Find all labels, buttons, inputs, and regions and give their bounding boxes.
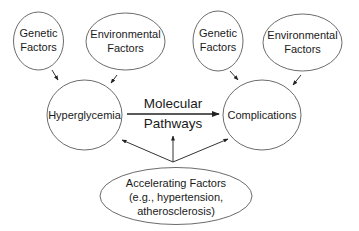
diabetes-complications-diagram: Genetic Factors Environmental Factors Ge… <box>0 0 359 231</box>
accelerating-line3: atherosclerosis) <box>137 205 215 217</box>
environmental-left-line2: Factors <box>107 42 144 54</box>
node-environmental-factors-right: Environmental Factors <box>263 14 342 71</box>
node-genetic-factors-left: Genetic Factors <box>14 12 64 70</box>
environmental-right-line1: Environmental <box>267 29 337 41</box>
complications-label: Complications <box>227 109 297 121</box>
arrow-genetic-left-to-hyperglycemia <box>52 70 58 80</box>
arrow-environmental-right-to-complications <box>293 75 301 85</box>
node-genetic-factors-right: Genetic Factors <box>193 11 243 71</box>
genetic-right-line2: Factors <box>200 41 237 53</box>
accelerating-line2: (e.g., hypertension, <box>129 191 223 203</box>
arrow-environmental-left-to-hyperglycemia <box>111 75 117 83</box>
genetic-left-line2: Factors <box>20 41 57 53</box>
node-hyperglycemia: Hyperglycemia <box>47 80 122 150</box>
arrow-accelerating-to-hyperglycemia <box>122 140 173 162</box>
genetic-right-line1: Genetic <box>199 27 237 39</box>
molecular-pathways-line1: Molecular <box>144 96 203 111</box>
node-accelerating-factors: Accelerating Factors (e.g., hypertension… <box>100 168 252 225</box>
genetic-left-line1: Genetic <box>20 27 58 39</box>
accelerating-line1: Accelerating Factors <box>126 177 227 189</box>
arrow-accelerating-to-complications <box>173 139 228 162</box>
arrow-genetic-right-to-complications <box>230 71 238 80</box>
environmental-right-line2: Factors <box>284 43 321 55</box>
hyperglycemia-label: Hyperglycemia <box>48 109 122 121</box>
node-complications: Complications <box>223 80 301 150</box>
node-environmental-factors-left: Environmental Factors <box>86 13 165 70</box>
molecular-pathways-line2: Pathways <box>144 116 203 131</box>
environmental-left-line1: Environmental <box>90 28 160 40</box>
